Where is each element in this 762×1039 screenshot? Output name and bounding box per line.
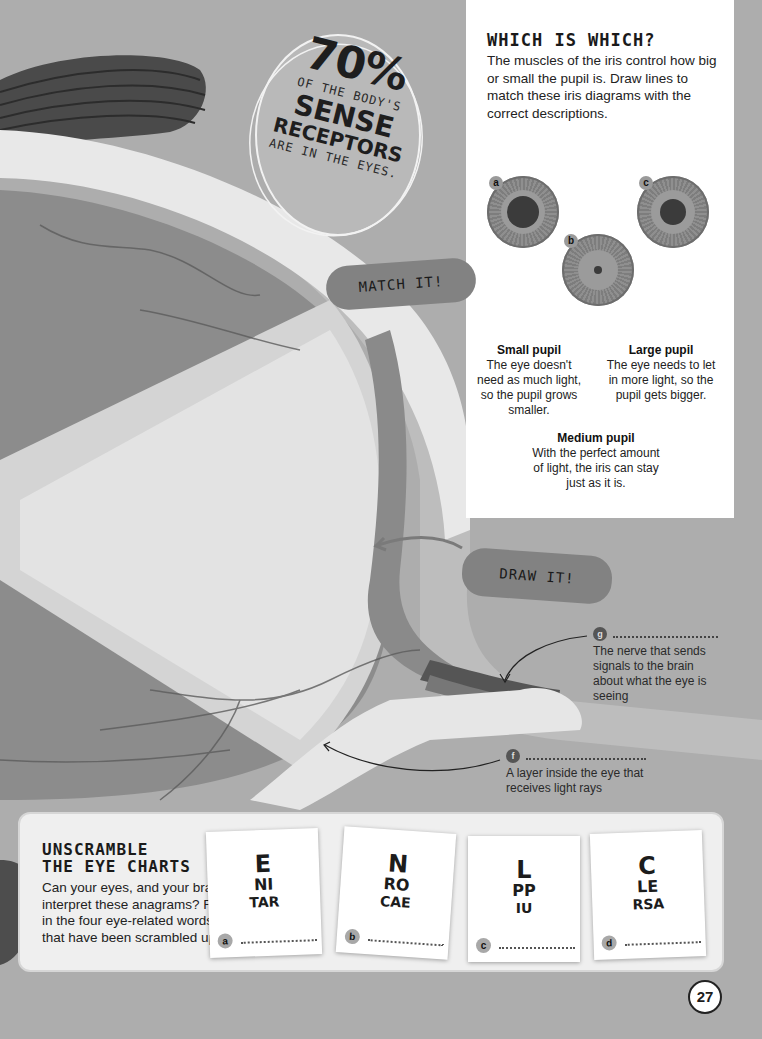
answer-line-f[interactable] xyxy=(526,752,646,760)
card-badge-b: b xyxy=(344,929,360,945)
which-is-which-panel: WHICH IS WHICH? The muscles of the iris … xyxy=(466,0,734,518)
page-number: 27 xyxy=(688,980,722,1014)
description-large-pupil[interactable]: Large pupil The eye needs to let in more… xyxy=(606,343,716,403)
pupil-medium xyxy=(660,199,686,225)
description-medium-pupil[interactable]: Medium pupil With the perfect amount of … xyxy=(526,431,666,491)
label-g-text: The nerve that sends signals to the brai… xyxy=(593,644,718,704)
iris-badge-a: a xyxy=(489,176,503,190)
label-optic-nerve: g The nerve that sends signals to the br… xyxy=(593,627,718,704)
page: 70% OF THE BODY'S SENSE RECEPTORS ARE IN… xyxy=(0,0,762,1039)
description-small-pupil[interactable]: Small pupil The eye doesn't need as much… xyxy=(474,343,584,418)
eye-chart-card-d: C LE RSA d xyxy=(590,830,706,960)
answer-line-d[interactable] xyxy=(625,937,701,946)
card-badge-a: a xyxy=(217,933,233,949)
answer-line-b[interactable] xyxy=(368,935,444,946)
unscramble-title: UNSCRAMBLE THE EYE CHARTS xyxy=(42,841,232,875)
card-badge-c: c xyxy=(476,938,491,953)
pupil-large xyxy=(507,196,539,228)
unscramble-section: UNSCRAMBLE THE EYE CHARTS Can your eyes,… xyxy=(18,812,724,972)
answer-line-c[interactable] xyxy=(499,943,575,949)
answer-line-a[interactable] xyxy=(241,935,317,944)
answer-line-g[interactable] xyxy=(613,630,718,638)
which-is-which-title: WHICH IS WHICH? xyxy=(487,30,656,50)
unscramble-instructions: Can your eyes, and your brain, interpret… xyxy=(42,880,232,946)
label-f-text: A layer inside the eye that receives lig… xyxy=(506,766,646,796)
label-badge-f: f xyxy=(506,749,520,763)
card-badge-d: d xyxy=(601,935,617,951)
eye-chart-card-c: L PP IU c xyxy=(468,836,580,962)
iris-badge-c: c xyxy=(639,176,653,190)
eye-chart-card-b: N RO CAE b xyxy=(336,826,457,960)
label-badge-g: g xyxy=(593,627,607,641)
iris-badge-b: b xyxy=(564,234,578,248)
which-is-which-intro: The muscles of the iris control how big … xyxy=(487,52,727,122)
label-retina: f A layer inside the eye that receives l… xyxy=(506,749,646,796)
eye-chart-card-a: E NI TAR a xyxy=(206,828,322,958)
pupil-small xyxy=(594,266,602,274)
